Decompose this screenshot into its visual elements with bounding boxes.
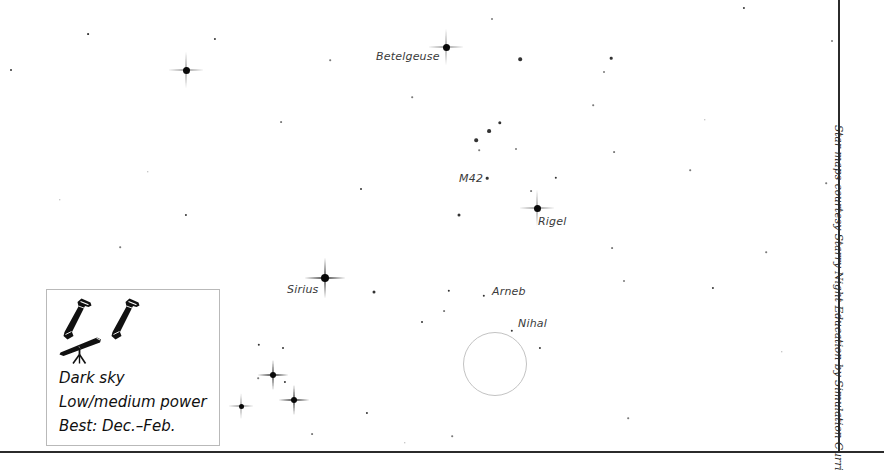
star-point — [478, 149, 480, 151]
page-border-bottom — [0, 451, 884, 453]
binoculars-icon — [61, 297, 95, 341]
star-point — [610, 57, 613, 60]
star-point — [258, 344, 260, 346]
star-point — [689, 169, 691, 171]
star-point — [530, 190, 532, 192]
legend-box: Dark sky Low/medium power Best: Dec.–Feb… — [46, 289, 220, 446]
star-point — [613, 151, 615, 153]
star-label-arneb: Arneb — [492, 285, 526, 298]
star-point — [592, 104, 594, 106]
star-point — [781, 351, 782, 352]
star-point — [311, 433, 313, 435]
star-point — [515, 148, 517, 150]
star-point — [443, 310, 445, 312]
star-point — [366, 412, 368, 414]
star-point — [87, 33, 89, 35]
star-point — [282, 347, 284, 349]
star-point — [555, 177, 557, 179]
star-point — [511, 330, 513, 332]
star-point — [448, 290, 450, 292]
star-point — [257, 377, 259, 379]
bright-star — [258, 360, 288, 390]
star-point — [611, 247, 613, 249]
star-point — [185, 214, 187, 216]
star-point — [373, 291, 376, 294]
star-map-page: BetelgeuseM42RigelSiriusArnebNihal — [0, 0, 884, 470]
star-point — [404, 442, 405, 443]
star-point — [627, 417, 629, 419]
star-point — [483, 295, 485, 297]
star-point — [765, 251, 767, 253]
star-point — [59, 199, 60, 200]
star-point — [486, 177, 489, 180]
binoculars-icon — [109, 297, 143, 341]
star-point — [411, 96, 413, 98]
star-label-betelgeuse: Betelgeuse — [376, 50, 440, 63]
star-point — [214, 38, 216, 40]
star-point — [623, 280, 625, 282]
star-point — [458, 214, 461, 217]
star-point — [360, 188, 362, 190]
star-label-nihal: Nihal — [518, 317, 547, 330]
telescope-icon — [57, 336, 113, 366]
star-point — [704, 119, 705, 120]
bright-star — [279, 385, 309, 415]
star-point — [603, 71, 605, 73]
star-point — [491, 18, 493, 20]
legend-line-dark-sky: Dark sky — [59, 366, 213, 390]
star-label-rigel: Rigel — [538, 215, 567, 228]
star-point — [147, 171, 148, 172]
legend-text-lines: Dark sky Low/medium power Best: Dec.–Feb… — [59, 366, 213, 438]
star-point — [329, 59, 331, 61]
bright-star — [229, 394, 254, 419]
field-of-view-circle — [463, 332, 527, 396]
star-point — [119, 246, 121, 248]
star-point — [743, 7, 745, 9]
star-label-sirius: Sirius — [287, 283, 319, 296]
star-point — [831, 40, 833, 42]
legend-icon-row — [47, 290, 219, 364]
star-point — [712, 287, 714, 289]
star-point — [487, 129, 491, 133]
star-point — [825, 182, 827, 184]
star-point — [474, 138, 478, 142]
bright-star — [169, 53, 204, 88]
star-point — [421, 321, 423, 323]
credit-text: Star maps courtesy Starry Night Educatio… — [833, 125, 845, 425]
star-point — [284, 381, 286, 383]
legend-line-power: Low/medium power — [59, 390, 213, 414]
star-label-m42: M42 — [459, 172, 483, 185]
star-point — [498, 121, 501, 124]
star-point — [280, 121, 282, 123]
star-point — [539, 347, 541, 349]
star-point — [10, 69, 12, 71]
star-point — [518, 57, 522, 61]
star-point — [451, 435, 453, 437]
legend-line-best-months: Best: Dec.–Feb. — [59, 414, 213, 438]
